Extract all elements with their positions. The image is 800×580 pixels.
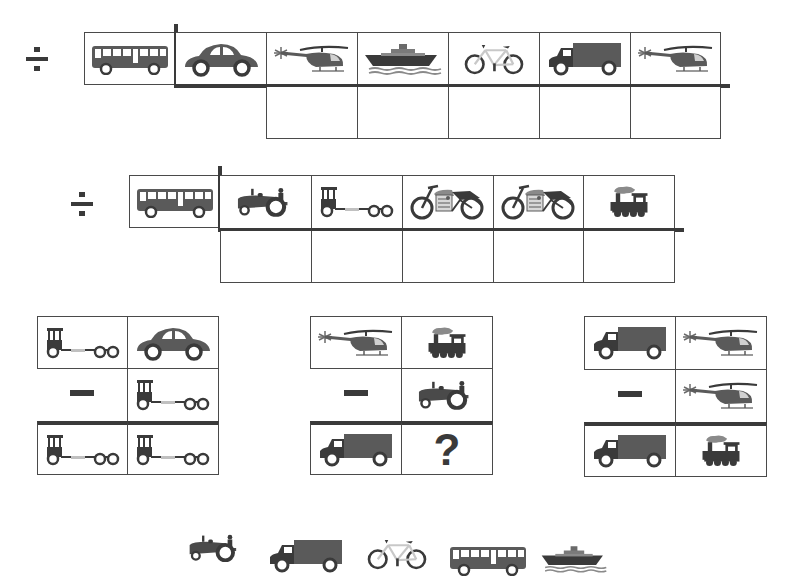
subtraction-puzzle-2: ?	[310, 316, 493, 476]
choice-tractor[interactable]	[185, 528, 247, 568]
truck-icon	[590, 325, 670, 361]
choice-ship[interactable]	[540, 542, 608, 576]
train-icon	[607, 184, 651, 220]
answer-cell-2-5[interactable]	[583, 231, 675, 283]
subtraction-puzzle-1	[37, 316, 219, 476]
minuend-cell-3-2	[675, 316, 767, 370]
dividend-cell-2-1	[220, 175, 312, 229]
subtrahend-cell-3	[675, 369, 767, 423]
minuend-cell-2-1	[310, 316, 402, 369]
truck-icon	[545, 41, 625, 77]
dividend-cell-2-5	[583, 175, 675, 229]
answer-cell-1-5[interactable]	[630, 87, 721, 139]
dividend-cell-1-1	[176, 32, 267, 85]
dividend-cell-1-6	[630, 32, 721, 85]
divisor-bus-2	[129, 175, 221, 228]
dividend-cell-2-4	[493, 175, 584, 229]
minus-operator-3	[618, 391, 642, 397]
tractor-icon	[414, 377, 480, 413]
helicopter-icon	[681, 379, 761, 413]
truck-icon	[265, 538, 347, 574]
dividend-cell-1-5	[539, 32, 631, 85]
dividend-cell-1-3	[357, 32, 449, 85]
question-mark: ?	[434, 428, 461, 472]
answer-cell-2-1[interactable]	[220, 231, 312, 283]
helicopter-icon	[316, 326, 396, 360]
answer-cell-2-3[interactable]	[402, 231, 494, 283]
dividend-cell-1-4	[448, 32, 540, 85]
tractor-icon	[185, 528, 247, 568]
tractor-trailer-icon	[133, 377, 213, 413]
minuend-cell-1-1	[37, 316, 128, 369]
minus-operator-2	[344, 390, 368, 396]
dividend-cell-2-3	[402, 175, 494, 229]
bicycle-icon	[459, 43, 529, 75]
car-icon	[133, 325, 213, 361]
dividend-cell-2-2	[311, 175, 403, 229]
result-cell-1-2	[127, 421, 219, 475]
truck-icon	[590, 433, 670, 469]
unknown-answer-cell[interactable]: ?	[401, 421, 493, 475]
subtrahend-cell-1	[127, 368, 219, 422]
ship-icon	[540, 542, 608, 576]
minuend-cell-1-2	[127, 316, 219, 369]
motorcycle-icon	[499, 184, 579, 220]
minuend-cell-2-2	[401, 316, 493, 369]
tractor-trailer-icon	[317, 184, 397, 220]
dividend-cell-1-2	[266, 32, 358, 85]
divisor-bus-1	[84, 32, 176, 85]
tractor-trailer-icon	[133, 432, 213, 468]
answer-cell-1-3[interactable]	[448, 87, 540, 139]
result-cell-1-1	[37, 421, 128, 475]
tractor-trailer-icon	[43, 432, 123, 468]
answer-cell-2-4[interactable]	[493, 231, 584, 283]
ship-icon	[363, 42, 443, 76]
car-icon	[181, 41, 261, 77]
choice-bicycle[interactable]	[362, 536, 432, 572]
bus-icon	[135, 186, 215, 218]
answer-cell-1-1[interactable]	[266, 87, 358, 139]
tractor-icon	[233, 184, 299, 220]
minus-operator-1	[70, 390, 94, 396]
choice-bus[interactable]	[447, 544, 529, 576]
answer-cell-1-4[interactable]	[539, 87, 631, 139]
answer-cell-1-2[interactable]	[357, 87, 449, 139]
helicopter-icon	[272, 42, 352, 76]
subtrahend-cell-2	[401, 368, 493, 422]
minuend-cell-3-1	[584, 316, 676, 370]
tractor-trailer-icon	[43, 325, 123, 361]
helicopter-icon	[681, 326, 761, 360]
result-cell-3-1	[584, 422, 676, 477]
answer-cell-2-2[interactable]	[311, 231, 403, 283]
choice-truck[interactable]	[265, 538, 347, 574]
result-cell-3-2	[675, 422, 767, 477]
helicopter-icon	[636, 42, 716, 76]
bus-icon	[447, 544, 529, 576]
subtraction-puzzle-3	[584, 316, 767, 477]
truck-icon	[316, 432, 396, 468]
divide-operator-1	[26, 47, 48, 71]
train-icon	[425, 324, 469, 362]
bicycle-icon	[362, 536, 432, 572]
divide-operator-2	[71, 192, 93, 216]
train-icon	[699, 432, 743, 470]
motorcycle-icon	[408, 184, 488, 220]
bus-icon	[90, 43, 170, 75]
result-cell-2-1	[310, 421, 402, 475]
